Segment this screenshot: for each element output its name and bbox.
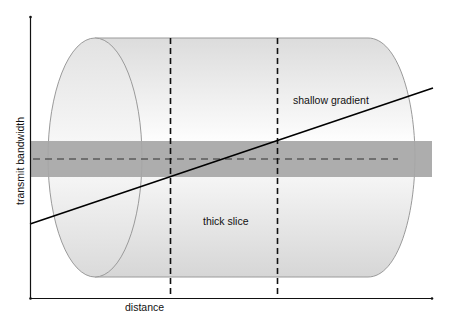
x-axis-label: distance [125, 301, 164, 313]
origin-dot [29, 297, 32, 300]
x-axis-end-dot [431, 297, 434, 300]
y-axis-label: transmit bandwidth [14, 117, 26, 205]
gradient-label: shallow gradient [293, 94, 369, 106]
slice-label: thick slice [203, 215, 249, 227]
y-axis-end-dot [29, 16, 32, 19]
diagram-canvas: shallow gradient thick slice distance tr… [0, 0, 449, 326]
